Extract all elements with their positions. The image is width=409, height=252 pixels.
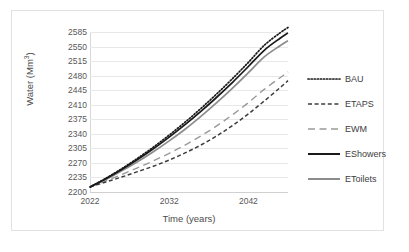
- legend-swatch-etaps: [308, 99, 340, 109]
- y-axis-tick-label: 2305: [68, 144, 87, 153]
- y-axis-tick-label: 2410: [68, 100, 87, 109]
- y-axis-tick-labels: 2200223522702305234023752410244524802515…: [52, 32, 87, 193]
- chart-container: Water (Mm3) 2200223522702305234023752410…: [11, 10, 384, 231]
- legend-label: BAU: [345, 74, 364, 84]
- legend-swatch-eshowers: [308, 149, 340, 159]
- y-axis-tick-label: 2585: [68, 28, 87, 37]
- series-lines: [90, 32, 288, 192]
- y-axis-tick-label: 2340: [68, 130, 87, 139]
- legend-label: EShowers: [345, 149, 386, 159]
- x-axis-title: Time (years): [90, 213, 288, 224]
- legend-label: EWM: [345, 124, 367, 134]
- series-svg: [90, 32, 288, 192]
- legend: BAUETAPSEWMEShowersEToilets: [308, 66, 396, 191]
- y-axis-tick-label: 2200: [68, 188, 87, 197]
- legend-item-etoilets[interactable]: EToilets: [308, 166, 396, 191]
- x-axis-tick-label: 2032: [160, 196, 179, 206]
- legend-swatch-bau: [308, 74, 340, 84]
- legend-item-ewm[interactable]: EWM: [308, 116, 396, 141]
- y-axis-tick-label: 2550: [68, 42, 87, 51]
- legend-item-eshowers[interactable]: EShowers: [308, 141, 396, 166]
- y-axis-tick-label: 2515: [68, 57, 87, 66]
- legend-label: EToilets: [345, 174, 377, 184]
- y-axis-tick-label: 2235: [68, 173, 87, 182]
- y-axis-tick-label: 2480: [68, 71, 87, 80]
- legend-item-bau[interactable]: BAU: [308, 66, 396, 91]
- legend-swatch-ewm: [308, 124, 340, 134]
- legend-label: ETAPS: [345, 99, 374, 109]
- x-axis-tick-label: 2022: [81, 196, 100, 206]
- y-axis-title-superscript: 3: [23, 56, 30, 60]
- series-line-bau: [90, 27, 288, 187]
- series-line-eshowers: [90, 33, 288, 187]
- legend-item-etaps[interactable]: ETAPS: [308, 91, 396, 116]
- plot-area: [90, 32, 288, 192]
- legend-swatch-etoilets: [308, 174, 340, 184]
- y-axis-title-tail: ): [24, 52, 35, 55]
- x-axis-tick-labels: 202220322042: [90, 196, 288, 210]
- y-axis-tick-label: 2375: [68, 115, 87, 124]
- y-axis-title: Water (Mm3): [23, 24, 35, 134]
- y-axis-tick-label: 2445: [68, 86, 87, 95]
- y-axis-tick-label: 2270: [68, 159, 87, 168]
- x-axis-tick-label: 2042: [239, 196, 258, 206]
- gridline: [90, 192, 288, 193]
- y-axis-title-text: Water (Mm: [24, 59, 35, 106]
- series-line-etoilets: [90, 41, 288, 187]
